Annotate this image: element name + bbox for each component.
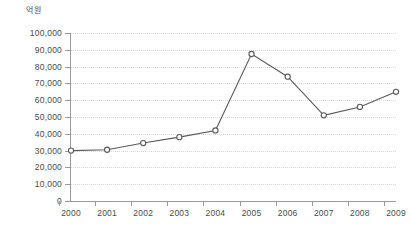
x-axis-tick — [131, 201, 132, 206]
y-axis-tick — [65, 33, 70, 34]
x-axis-tick-label: 2000 — [61, 208, 81, 218]
y-axis-tick-label: 50,000 — [2, 112, 62, 122]
x-axis-tick-label: 2006 — [278, 208, 298, 218]
y-axis-tick-label: 60,000 — [2, 95, 62, 105]
x-axis-tick — [167, 201, 168, 206]
x-axis-tick — [276, 201, 277, 206]
y-axis-unit-label: 억원 — [26, 4, 41, 15]
y-axis-tick — [65, 134, 70, 135]
gridline — [71, 117, 396, 118]
x-axis-tick — [59, 201, 60, 206]
gridline — [71, 151, 396, 152]
gridline — [71, 50, 396, 51]
x-axis-tick-label: 2004 — [206, 208, 226, 218]
gridline — [71, 67, 396, 68]
x-axis-tick — [348, 201, 349, 206]
y-axis-tick-label: 30,000 — [2, 146, 62, 156]
y-axis-tick — [65, 151, 70, 152]
x-axis-tick-label: 2007 — [314, 208, 334, 218]
plot-area — [71, 33, 396, 201]
y-axis-tick-label: 10,000 — [2, 179, 62, 189]
y-axis-tick — [65, 83, 70, 84]
y-axis-tick-label: 0 — [2, 196, 62, 206]
gridline — [71, 83, 396, 84]
x-axis-tick-label: 2003 — [169, 208, 189, 218]
y-axis-tick — [65, 167, 70, 168]
x-axis-tick — [95, 201, 96, 206]
y-axis-tick — [65, 184, 70, 185]
y-axis-tick — [65, 100, 70, 101]
y-axis-tick-label: 100,000 — [2, 28, 62, 38]
y-axis-tick-label: 40,000 — [2, 129, 62, 139]
y-axis-tick — [65, 50, 70, 51]
line-chart: 억원 100,00090,00080,00070,00060,00050,000… — [0, 0, 411, 240]
y-axis-tick — [65, 117, 70, 118]
y-axis-tick-label: 80,000 — [2, 62, 62, 72]
y-axis-tick — [65, 201, 70, 202]
y-axis-tick-label: 70,000 — [2, 78, 62, 88]
x-axis-tick-label: 2001 — [97, 208, 117, 218]
x-axis-tick — [203, 201, 204, 206]
gridline — [71, 134, 396, 135]
x-axis-tick-label: 2002 — [133, 208, 153, 218]
y-axis-tick-label: 90,000 — [2, 45, 62, 55]
gridline — [71, 100, 396, 101]
x-axis-tick-label: 2005 — [242, 208, 262, 218]
gridline — [71, 167, 396, 168]
y-axis-tick-label: 20,000 — [2, 162, 62, 172]
x-axis-tick — [384, 201, 385, 206]
x-axis-tick — [240, 201, 241, 206]
x-axis-tick-label: 2009 — [386, 208, 406, 218]
x-axis-tick — [312, 201, 313, 206]
gridline — [71, 33, 396, 34]
gridline — [71, 184, 396, 185]
x-axis-tick-label: 2008 — [350, 208, 370, 218]
y-axis-tick — [65, 67, 70, 68]
